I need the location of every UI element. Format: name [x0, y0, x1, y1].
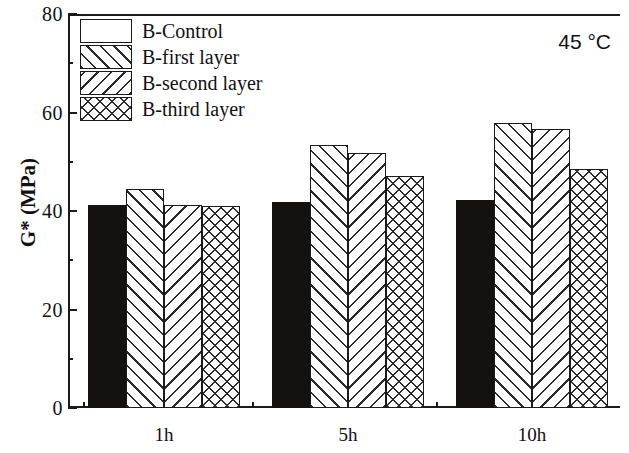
y-tick-label: 60: [42, 103, 63, 123]
bar: [532, 129, 570, 408]
legend-swatch: [80, 45, 132, 69]
bar: [494, 123, 532, 408]
legend-item: B-third layer: [80, 96, 263, 122]
bar-chart: G* (MPa) 020406080 1h5h10h B-ControlB-fi…: [0, 0, 629, 453]
x-tick-minor: [436, 402, 438, 408]
bar: [202, 206, 240, 408]
bar: [570, 169, 608, 408]
y-tick-minor: [68, 62, 73, 64]
bar: [126, 189, 164, 408]
bar: [386, 176, 424, 408]
y-tick-major: [68, 13, 77, 15]
legend-label: B-second layer: [142, 73, 263, 93]
y-tick-label: 80: [42, 4, 63, 24]
y-tick-major: [68, 112, 77, 114]
bar: [310, 145, 348, 408]
x-tick-minor: [252, 402, 254, 408]
y-tick-major: [68, 210, 77, 212]
y-axis-title: G* (MPa): [16, 123, 41, 283]
chart-legend: B-ControlB-first layerB-second layerB-th…: [80, 18, 263, 122]
y-tick-minor: [68, 259, 73, 261]
y-tick-label: 0: [53, 398, 64, 418]
y-tick-label: 40: [42, 201, 63, 221]
y-tick-label: 20: [42, 300, 63, 320]
y-tick-major: [68, 407, 77, 409]
legend-swatch: [80, 19, 132, 43]
x-tick-label: 5h: [339, 424, 358, 446]
x-tick-minor: [83, 402, 85, 408]
temperature-annotation: 45 °C: [558, 30, 611, 54]
y-tick-major: [68, 309, 77, 311]
bar: [272, 202, 310, 408]
legend-label: B-Control: [142, 21, 223, 41]
legend-item: B-second layer: [80, 70, 263, 96]
y-tick-minor: [68, 358, 73, 360]
bar: [88, 205, 126, 408]
bar: [456, 200, 494, 408]
legend-item: B-Control: [80, 18, 263, 44]
bar: [348, 153, 386, 408]
legend-label: B-first layer: [142, 47, 239, 67]
y-tick-minor: [68, 161, 73, 163]
legend-item: B-first layer: [80, 44, 263, 70]
x-tick-label: 10h: [518, 424, 547, 446]
legend-swatch: [80, 97, 132, 121]
legend-label: B-third layer: [142, 99, 245, 119]
x-tick-label: 1h: [155, 424, 174, 446]
legend-swatch: [80, 71, 132, 95]
bar: [164, 205, 202, 408]
